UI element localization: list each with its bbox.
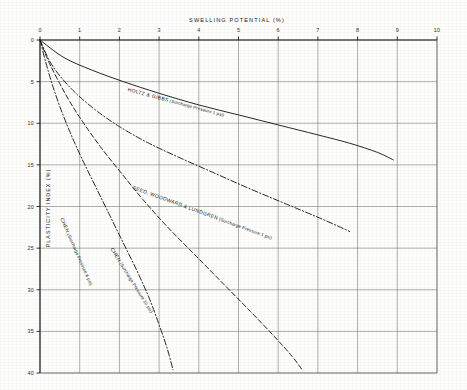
chart-figure: SWELLING POTENTIAL (%) PLASTICITY INDEX …: [0, 0, 467, 390]
y-tick-label: 35: [28, 328, 34, 334]
y-tick-label: 20: [28, 204, 34, 210]
grid-lines: [40, 40, 437, 373]
curve-3: [40, 40, 302, 370]
curve-4: [40, 40, 173, 370]
y-tick-label: 15: [28, 162, 34, 168]
x-tick-label: 1: [78, 27, 81, 33]
curve-1: [40, 40, 393, 160]
y-tick-label: 10: [28, 120, 34, 126]
x-tick-label: 4: [197, 27, 200, 33]
x-tick-label: 8: [356, 27, 359, 33]
x-tick-label: 6: [277, 27, 280, 33]
x-tick-label: 9: [396, 27, 399, 33]
y-tick-label: 25: [28, 245, 34, 251]
data-curves: [40, 40, 393, 370]
y-tick-label: 5: [31, 79, 34, 85]
x-tick-label: 5: [237, 27, 240, 33]
x-tick-label: 10: [434, 27, 440, 33]
y-tick-label: 30: [28, 287, 34, 293]
plot-area: [0, 0, 467, 390]
curve-2: [40, 40, 350, 231]
axis-ticks: [37, 37, 438, 374]
x-tick-label: 7: [316, 27, 319, 33]
x-tick-label: 2: [118, 27, 121, 33]
y-tick-label: 40: [28, 370, 34, 376]
x-tick-label: 0: [38, 27, 41, 33]
y-tick-label: 0: [31, 37, 34, 43]
x-tick-label: 3: [157, 27, 160, 33]
